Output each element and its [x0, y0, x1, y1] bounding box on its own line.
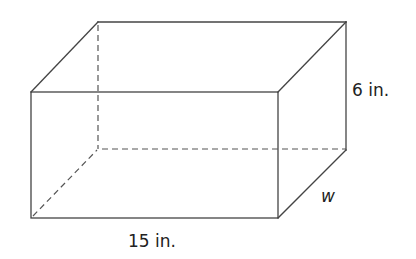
rectangular-prism-diagram: 6 in. 15 in. w [0, 0, 416, 259]
height-label: 6 in. [352, 80, 389, 100]
length-label: 15 in. [128, 231, 176, 251]
bottom-right-depth-edge [278, 150, 346, 218]
width-label: w [321, 186, 335, 206]
top-right-depth-edge [278, 22, 346, 92]
hidden-bottom-left-depth-edge [33, 150, 97, 216]
top-left-depth-edge [31, 22, 98, 92]
front-face [31, 92, 278, 218]
